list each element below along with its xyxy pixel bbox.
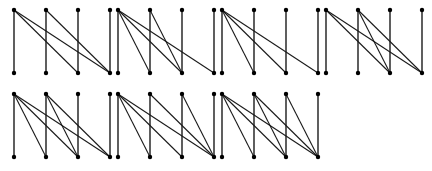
graph-node [284,92,288,96]
graph-node [76,92,80,96]
graph-7 [220,92,320,159]
graph-node [116,92,120,96]
graph-node [108,92,112,96]
diagonal-edge [46,94,78,157]
diagonal-edge [150,10,182,73]
graph-node [116,71,120,75]
graph-node [316,155,320,159]
graph-node [12,8,16,12]
graph-node [180,92,184,96]
graph-node [316,92,320,96]
graph-node [76,8,80,12]
graph-node [284,71,288,75]
graph-2 [116,8,216,75]
graph-5 [12,92,112,159]
graph-node [220,71,224,75]
graph-node [44,8,48,12]
graph-node [116,8,120,12]
graph-node [148,92,152,96]
diagonal-edge [182,94,214,157]
graph-node [148,8,152,12]
graph-node [252,155,256,159]
diagonal-edge [358,10,390,73]
graph-node [324,8,328,12]
graph-node [252,92,256,96]
graph-node [252,71,256,75]
graph-node [108,8,112,12]
graph-1 [12,8,112,75]
graph-node [148,155,152,159]
graph-node [420,8,424,12]
graph-node [220,8,224,12]
graph-node [44,71,48,75]
graph-node [212,92,216,96]
graph-node [316,71,320,75]
graph-node [180,155,184,159]
graph-node [12,92,16,96]
graph-node [44,155,48,159]
diagonal-edge [222,10,318,73]
diagonal-edge [222,10,254,73]
graph-node [12,71,16,75]
diagonal-edge [118,94,214,157]
graph-3 [220,8,320,75]
graph-node [388,8,392,12]
graph-node [76,71,80,75]
bipartite-graphs-diagram [0,0,432,171]
graph-node [252,8,256,12]
graph-node [212,155,216,159]
graph-node [108,71,112,75]
graph-node [316,8,320,12]
graph-node [324,71,328,75]
diagonal-edge [14,94,46,157]
graph-node [220,92,224,96]
graph-node [356,71,360,75]
graph-node [284,155,288,159]
graph-node [180,71,184,75]
graph-6 [116,92,216,159]
graph-node [108,155,112,159]
graph-node [76,155,80,159]
graph-node [220,155,224,159]
diagonal-edge [286,94,318,157]
graph-node [12,155,16,159]
graph-node [148,71,152,75]
graph-node [420,71,424,75]
graph-node [116,155,120,159]
graph-node [212,71,216,75]
diagonal-edge [118,94,150,157]
graph-node [284,8,288,12]
graph-node [180,8,184,12]
diagonal-edge [118,10,150,73]
graph-4 [324,8,424,75]
graph-node [44,92,48,96]
graph-node [212,8,216,12]
diagonal-edge [254,94,286,157]
graph-node [356,8,360,12]
diagonal-edge [222,94,254,157]
graph-node [388,71,392,75]
diagonal-edge [14,10,110,73]
